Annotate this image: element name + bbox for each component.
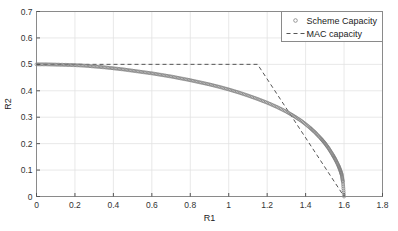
legend-label-mac-capacity: MAC capacity bbox=[307, 29, 363, 39]
x-axis-tick-label: 0.8 bbox=[184, 200, 196, 210]
y-axis-tick-label: 0.4 bbox=[21, 86, 33, 96]
x-axis-tick-label: 1.2 bbox=[261, 200, 273, 210]
x-axis-tick-label: 0.4 bbox=[107, 200, 119, 210]
chart-canvas: 00.20.40.60.811.21.41.61.800.10.20.30.40… bbox=[0, 0, 398, 231]
y-axis-tick-label: 0 bbox=[28, 192, 33, 202]
x-axis-tick-label: 1.8 bbox=[377, 200, 389, 210]
y-axis-tick-label: 0.6 bbox=[21, 33, 33, 43]
x-axis-tick-label: 1.6 bbox=[338, 200, 350, 210]
x-axis-tick-label: 1.4 bbox=[300, 200, 312, 210]
x-axis-tick-label: 1 bbox=[226, 200, 231, 210]
legend-label-scheme-capacity: Scheme Capacity bbox=[307, 16, 378, 26]
x-axis-tick-label: 0 bbox=[34, 200, 39, 210]
capacity-region-figure: 00.20.40.60.811.21.41.61.800.10.20.30.40… bbox=[0, 0, 398, 231]
y-axis-tick-label: 0.2 bbox=[21, 139, 33, 149]
y-axis-tick-label: 0.1 bbox=[21, 165, 33, 175]
x-axis-title: R1 bbox=[204, 213, 216, 223]
x-axis-tick-label: 0.6 bbox=[146, 200, 158, 210]
y-axis-tick-label: 0.3 bbox=[21, 112, 33, 122]
y-axis-tick-label: 0.5 bbox=[21, 59, 33, 69]
x-axis-tick-label: 0.2 bbox=[69, 200, 81, 210]
y-axis-tick-label: 0.7 bbox=[21, 7, 33, 17]
y-axis-title: R2 bbox=[3, 98, 13, 110]
